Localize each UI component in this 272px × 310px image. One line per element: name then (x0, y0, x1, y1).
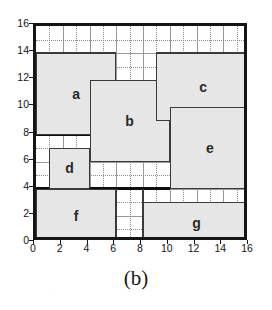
figure-caption: (b) (0, 266, 272, 291)
y-tick-mark (29, 240, 33, 241)
rectangle-label: a (72, 87, 80, 101)
y-tick-label: 2 (5, 208, 29, 219)
x-tick-mark (60, 240, 61, 244)
x-tick-mark (247, 240, 248, 244)
y-tick-label: 0 (5, 235, 29, 246)
packed-rectangle-e[interactable]: e (170, 107, 244, 188)
plot-area: abcdefg (36, 26, 244, 237)
packed-rectangle-f[interactable]: f (36, 189, 116, 237)
y-tick-label: 4 (5, 181, 29, 192)
y-tick-label: 8 (5, 126, 29, 137)
x-tick-mark (113, 240, 114, 244)
y-tick-label: 12 (5, 72, 29, 83)
rectangle-label: c (199, 80, 207, 94)
y-tick-label: 14 (5, 45, 29, 56)
packed-rectangle-g[interactable]: g (143, 202, 244, 237)
x-tick-label: 2 (57, 243, 63, 254)
y-tick-label: 16 (5, 18, 29, 29)
rectangle-label: f (74, 209, 79, 223)
y-tick-label: 6 (5, 153, 29, 164)
figure-container: 0246810121416 0246810121416 abcdefg (b) (0, 0, 272, 310)
x-tick-label: 8 (137, 243, 143, 254)
x-tick-mark (220, 240, 221, 244)
rectangle-label: b (125, 114, 134, 128)
x-tick-label: 10 (161, 243, 173, 254)
x-tick-mark (87, 240, 88, 244)
x-tick-label: 14 (214, 243, 226, 254)
x-tick-label: 6 (110, 243, 116, 254)
x-tick-label: 12 (188, 243, 200, 254)
x-tick-mark (167, 240, 168, 244)
gridline-horizontal (36, 40, 244, 41)
rectangle-label: g (192, 216, 201, 230)
x-tick-label: 0 (30, 243, 36, 254)
rectangle-label: d (65, 161, 74, 175)
x-tick-label: 16 (241, 243, 253, 254)
rectangle-label: e (206, 141, 214, 155)
y-tick-label: 10 (5, 99, 29, 110)
x-tick-label: 4 (84, 243, 90, 254)
plot-frame: abcdefg (33, 23, 247, 240)
packed-rectangle-d[interactable]: d (49, 148, 89, 189)
x-tick-mark (140, 240, 141, 244)
x-tick-mark (33, 240, 34, 244)
x-tick-mark (194, 240, 195, 244)
